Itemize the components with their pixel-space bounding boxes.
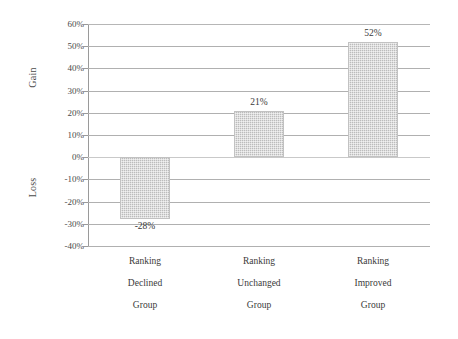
y-axis-tick-mark — [83, 246, 88, 247]
bar — [234, 111, 284, 158]
plot-area — [88, 24, 430, 246]
y-axis-tick-label: -40% — [40, 241, 84, 251]
bar — [348, 42, 398, 157]
y-axis-tick-label: 20% — [40, 108, 84, 118]
gridline — [88, 246, 430, 247]
y-axis-tick-mark — [83, 68, 88, 69]
y-axis-tick-mark — [83, 157, 88, 158]
bar-chart: Gain Loss 60%50%40%30%20%10%0%-10%-20%-3… — [0, 0, 458, 339]
category-label-line: Ranking — [199, 250, 319, 272]
category-label-line: Declined — [85, 272, 205, 294]
y-axis-tick-mark — [83, 224, 88, 225]
y-axis-tick-mark — [83, 113, 88, 114]
category-label-line: Improved — [313, 272, 433, 294]
y-axis-tick-label: 10% — [40, 130, 84, 140]
y-axis-tick-mark — [83, 179, 88, 180]
y-axis-tick-label: 60% — [40, 19, 84, 29]
category-label-line: Group — [85, 294, 205, 316]
y-axis-tick-label: 0% — [40, 152, 84, 162]
bar-value-label: -28% — [110, 221, 180, 231]
y-axis-tick-mark — [83, 46, 88, 47]
category-label-line: Ranking — [85, 250, 205, 272]
category-label-line: Group — [313, 294, 433, 316]
y-axis-tick-mark — [83, 135, 88, 136]
x-axis-category-label: RankingDeclinedGroup — [85, 250, 205, 316]
y-axis-tick-label: 30% — [40, 86, 84, 96]
x-axis-category-label: RankingUnchangedGroup — [199, 250, 319, 316]
y-axis-tick-labels: 60%50%40%30%20%10%0%-10%-20%-30%-40% — [34, 0, 84, 339]
y-axis-tick-mark — [83, 202, 88, 203]
category-label-line: Ranking — [313, 250, 433, 272]
y-axis-tick-label: -10% — [40, 174, 84, 184]
category-label-line: Unchanged — [199, 272, 319, 294]
gridline — [88, 24, 430, 25]
y-axis-tick-label: 40% — [40, 63, 84, 73]
y-axis-tick-mark — [83, 91, 88, 92]
y-axis-tick-label: -30% — [40, 219, 84, 229]
y-axis-tick-label: 50% — [40, 41, 84, 51]
y-axis-tick-mark — [83, 24, 88, 25]
y-axis-tick-label: -20% — [40, 197, 84, 207]
x-axis-category-labels: RankingDeclinedGroupRankingUnchangedGrou… — [88, 250, 430, 330]
bar — [120, 157, 170, 219]
x-axis-category-label: RankingImprovedGroup — [313, 250, 433, 316]
bar-value-label: 52% — [338, 28, 408, 38]
category-label-line: Group — [199, 294, 319, 316]
bar-value-label: 21% — [224, 97, 294, 107]
